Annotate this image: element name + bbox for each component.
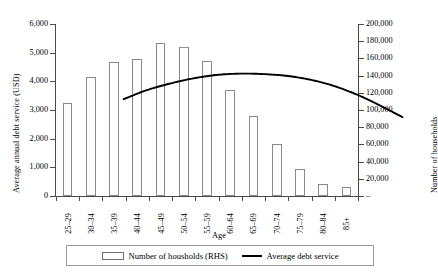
chart-figure: Average annual debt service (USD) Number… <box>0 0 438 273</box>
left-tick-mark <box>50 196 55 197</box>
x-tick-mark <box>102 197 103 201</box>
left-tick-label: 0 <box>44 192 48 200</box>
left-tick-mark <box>50 110 55 111</box>
x-axis-title: Age <box>0 231 438 240</box>
chart-legend: Number of housholds (RHS) Average debt s… <box>66 245 374 266</box>
right-tick-mark <box>359 24 364 25</box>
bar-swatch-icon <box>102 252 124 260</box>
legend-label-debt-service: Average debt service <box>267 251 339 261</box>
right-tick-label: 200,000 <box>366 20 393 28</box>
left-tick-mark <box>50 24 55 25</box>
line-swatch-icon <box>242 255 262 257</box>
left-tick-mark <box>50 167 55 168</box>
legend-label-households: Number of housholds (RHS) <box>129 251 228 261</box>
left-tick-label: 4,000 <box>30 77 48 85</box>
right-tick-label: 180,000 <box>366 37 393 45</box>
right-tick-mark <box>359 41 364 42</box>
left-tick-label: 5,000 <box>30 49 48 57</box>
left-tick-label: 3,000 <box>30 106 48 114</box>
plot-area <box>56 24 358 196</box>
left-tick-mark <box>50 139 55 140</box>
left-tick-mark <box>50 81 55 82</box>
x-tick-mark <box>56 197 57 201</box>
left-tick-label: 2,000 <box>30 135 48 143</box>
left-tick-mark <box>50 53 55 54</box>
bar-households <box>63 103 73 196</box>
legend-item-debt-service: Average debt service <box>242 251 339 261</box>
left-tick-label: 6,000 <box>30 20 48 28</box>
left-tick-label: 1,000 <box>30 163 48 171</box>
bar-households <box>86 77 96 196</box>
right-axis-title: Number of households <box>430 116 438 193</box>
x-tick-mark <box>79 197 80 201</box>
line-series <box>112 48 414 220</box>
left-axis-title: Average annual debt service (USD) <box>12 73 21 193</box>
legend-item-households: Number of housholds (RHS) <box>102 251 228 261</box>
